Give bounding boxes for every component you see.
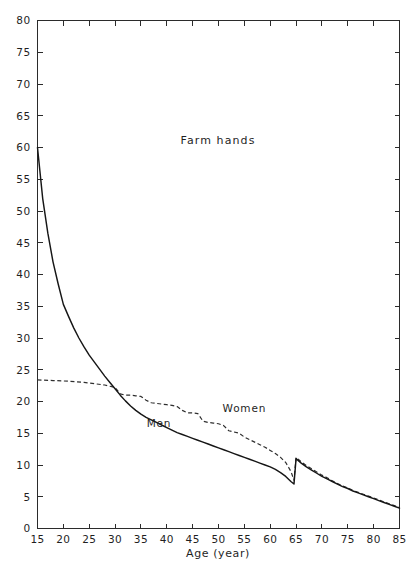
chart-background bbox=[0, 0, 420, 565]
x-tick-label-25: 25 bbox=[82, 533, 96, 545]
y-tick-label-15: 15 bbox=[16, 427, 30, 439]
x-tick-label-45: 45 bbox=[186, 533, 200, 545]
y-tick-label-50: 50 bbox=[16, 205, 30, 217]
y-tick-label-55: 55 bbox=[16, 173, 30, 185]
y-tick-label-10: 10 bbox=[16, 459, 30, 471]
series-label-women: Women bbox=[223, 402, 267, 414]
chart-figure: 05101520253035404550556065707580 1520253… bbox=[0, 0, 420, 565]
y-tick-label-45: 45 bbox=[16, 237, 30, 249]
x-tick-label-70: 70 bbox=[315, 533, 329, 545]
x-axis-tick-labels: 152025303540455055606570758085 bbox=[30, 533, 406, 545]
y-tick-label-30: 30 bbox=[16, 332, 30, 344]
y-tick-label-70: 70 bbox=[16, 78, 30, 90]
x-tick-label-40: 40 bbox=[160, 533, 174, 545]
y-tick-label-25: 25 bbox=[16, 364, 30, 376]
y-tick-label-20: 20 bbox=[16, 395, 30, 407]
x-tick-label-75: 75 bbox=[341, 533, 355, 545]
farm-hands-line-chart: 05101520253035404550556065707580 1520253… bbox=[0, 0, 420, 565]
y-tick-label-5: 5 bbox=[23, 491, 30, 503]
y-tick-label-60: 60 bbox=[16, 141, 30, 153]
x-tick-label-60: 60 bbox=[263, 533, 277, 545]
x-axis-title: Age (year) bbox=[186, 547, 250, 560]
x-tick-label-50: 50 bbox=[211, 533, 225, 545]
x-tick-label-85: 85 bbox=[392, 533, 406, 545]
plot-title: Farm hands bbox=[181, 134, 256, 147]
y-tick-label-80: 80 bbox=[16, 14, 30, 26]
x-tick-label-80: 80 bbox=[367, 533, 381, 545]
series-label-men: Men bbox=[147, 417, 172, 429]
y-tick-label-75: 75 bbox=[16, 46, 30, 58]
x-tick-label-30: 30 bbox=[108, 533, 122, 545]
x-tick-label-35: 35 bbox=[134, 533, 148, 545]
x-tick-label-65: 65 bbox=[289, 533, 303, 545]
x-tick-label-55: 55 bbox=[237, 533, 251, 545]
y-tick-label-65: 65 bbox=[16, 110, 30, 122]
x-tick-label-20: 20 bbox=[56, 533, 70, 545]
y-tick-label-35: 35 bbox=[16, 300, 30, 312]
y-tick-label-40: 40 bbox=[16, 268, 30, 280]
x-tick-label-15: 15 bbox=[30, 533, 44, 545]
